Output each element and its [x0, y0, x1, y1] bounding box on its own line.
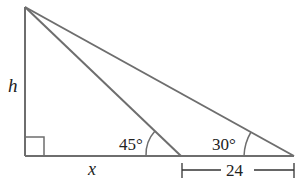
- angle-arc-30: [244, 132, 251, 156]
- label-angle-30: 30°: [212, 135, 236, 154]
- angle-arc-45: [146, 131, 155, 156]
- label-angle-45: 45°: [119, 135, 143, 154]
- label-x: x: [87, 159, 96, 179]
- triangle-diagram: h x 45° 30° 24: [0, 0, 305, 189]
- line-of-sight-30: [25, 7, 294, 156]
- right-angle-marker: [25, 137, 44, 156]
- diagram-svg: h x 45° 30° 24: [0, 0, 305, 189]
- label-24: 24: [226, 161, 244, 180]
- label-h: h: [8, 75, 18, 96]
